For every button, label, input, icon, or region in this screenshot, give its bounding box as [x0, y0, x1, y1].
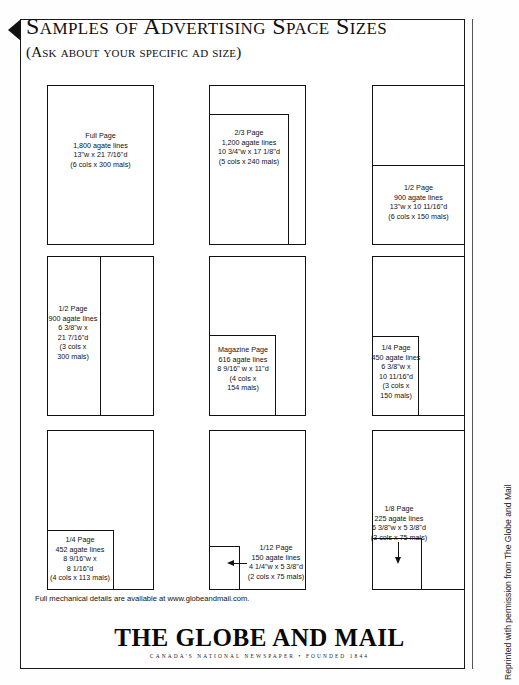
- masthead-title: THE GLOBE AND MAIL: [0, 625, 519, 650]
- quarter-page-horizontal-caption: 1/4 Page 452 agate lines 8 9/16"w x 8 1/…: [40, 535, 120, 583]
- page-subtitle: (Ask about your specific ad size): [26, 44, 241, 61]
- footer-note: Full mechanical details are available at…: [35, 594, 249, 603]
- twelfth-page-inner-box: [209, 546, 240, 590]
- left-triangle-marker-icon: [8, 19, 21, 41]
- arrow-left-icon: [227, 560, 247, 568]
- half-page-horizontal-divider: [372, 165, 465, 166]
- quarter-page-vertical-caption: 1/4 Page 450 agate lines 6 3/8"w x 10 11…: [368, 343, 424, 401]
- vertical-rule-divider: [472, 19, 473, 669]
- side-credit-text: Reprinted with permission from The Globe…: [499, 430, 517, 680]
- page-title: Samples of Advertising Space Sizes: [26, 13, 387, 40]
- full-page-caption: Full Page 1,800 agate lines 13"w x 21 7/…: [47, 131, 154, 169]
- magazine-page-caption: Magazine Page 616 agate lines 8 9/16" w …: [204, 345, 282, 393]
- eighth-page-caption: 1/8 Page 225 agate lines 6 3/8"w x 5 3/8…: [364, 504, 434, 542]
- half-page-horizontal-caption: 1/2 Page 900 agate lines 13"w x 10 11/16…: [372, 183, 465, 221]
- twelfth-page-caption: 1/12 Page 150 agate lines 4 1/4"w x 5 3/…: [240, 543, 312, 581]
- arrow-down-icon: [395, 542, 403, 564]
- half-page-vertical-caption: 1/2 Page 900 agate lines 6 3/8"w x 21 7/…: [45, 304, 101, 362]
- two-thirds-page-caption: 2/3 Page 1,200 agate lines 10 3/4"w x 17…: [206, 128, 292, 166]
- masthead-tagline: CANADA'S NATIONAL NEWSPAPER • FOUNDED 18…: [0, 653, 519, 659]
- masthead: THE GLOBE AND MAIL CANADA'S NATIONAL NEW…: [0, 625, 519, 659]
